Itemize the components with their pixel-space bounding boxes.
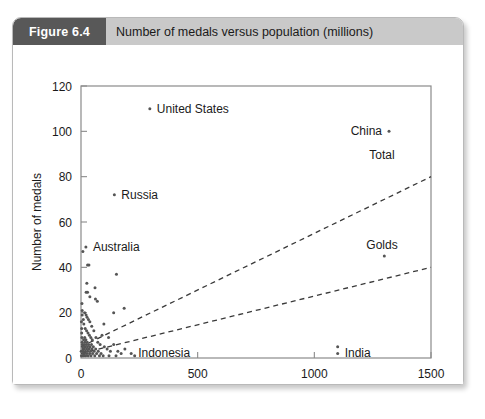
point-label-united-states: United States	[157, 102, 229, 116]
data-point	[102, 323, 105, 326]
y-tick-label: 60	[59, 216, 73, 230]
data-point	[99, 343, 102, 346]
y-tick-label: 20	[59, 306, 73, 320]
scatter-chart: 020406080100120050010001500Population (m…	[13, 45, 465, 385]
data-point	[109, 350, 112, 353]
data-point	[106, 347, 109, 350]
data-point	[123, 347, 126, 350]
data-point	[81, 313, 84, 316]
data-point	[100, 352, 103, 355]
data-point	[82, 354, 85, 357]
data-point	[80, 350, 83, 353]
data-point	[336, 345, 339, 348]
point-label-australia: Australia	[93, 240, 140, 254]
trend-line-golds	[81, 267, 431, 353]
y-tick-label: 80	[59, 170, 73, 184]
x-tick-label: 1500	[418, 367, 445, 381]
x-tick-label: 0	[78, 367, 85, 381]
y-axis-title: Number of medals	[30, 173, 44, 271]
figure-number-badge: Figure 6.4	[13, 18, 106, 45]
x-tick-label: 1000	[301, 367, 328, 381]
data-point	[103, 345, 106, 348]
data-point	[96, 341, 99, 344]
point-label-india: India	[345, 346, 371, 360]
y-tick-label: 120	[52, 80, 72, 94]
data-point	[112, 343, 115, 346]
data-point	[84, 245, 87, 248]
data-point	[90, 325, 93, 328]
data-point	[101, 334, 104, 337]
data-point	[130, 352, 133, 355]
y-tick-label: 0	[65, 352, 72, 366]
data-point	[94, 347, 97, 350]
data-point	[80, 327, 83, 330]
trend-line-total	[81, 177, 431, 347]
data-point	[80, 302, 83, 305]
data-point	[388, 130, 391, 133]
data-point	[82, 323, 85, 326]
data-point	[120, 352, 123, 355]
data-point	[91, 338, 94, 341]
data-point	[92, 329, 95, 332]
point-label-china: China	[351, 124, 383, 138]
data-point	[102, 354, 105, 357]
plot-panel: 020406080100120050010001500Population (m…	[13, 45, 463, 384]
data-point	[86, 291, 89, 294]
point-label-russia: Russia	[121, 188, 158, 202]
data-point	[336, 352, 339, 355]
data-point	[80, 332, 83, 335]
data-point	[92, 345, 95, 348]
data-point	[81, 309, 84, 312]
data-point	[123, 307, 126, 310]
data-point	[87, 264, 90, 267]
data-point	[383, 255, 386, 258]
data-point	[112, 311, 115, 314]
data-point	[107, 336, 110, 339]
series-label-golds: Golds	[366, 238, 397, 252]
series-label-total: Total	[369, 148, 394, 162]
data-point	[96, 300, 99, 303]
y-tick-label: 40	[59, 261, 73, 275]
data-point	[88, 320, 91, 323]
data-point	[115, 354, 118, 357]
figure-header: Figure 6.4 Number of medals versus popul…	[13, 18, 463, 45]
data-point	[94, 286, 97, 289]
data-point	[88, 295, 91, 298]
data-point	[115, 273, 118, 276]
data-point	[80, 320, 83, 323]
x-tick-label: 500	[188, 367, 208, 381]
figure-card: Figure 6.4 Number of medals versus popul…	[12, 17, 464, 385]
data-point	[97, 350, 100, 353]
data-point	[108, 354, 111, 357]
data-point	[81, 250, 84, 253]
data-point	[116, 350, 119, 353]
data-point	[133, 354, 136, 357]
y-tick-label: 100	[52, 125, 72, 139]
point-label-indonesia: Indonesia	[138, 346, 190, 360]
data-point	[148, 107, 151, 110]
data-point	[85, 282, 88, 285]
data-point	[94, 336, 97, 339]
figure-title: Number of medals versus population (mill…	[116, 18, 373, 45]
data-point	[113, 193, 116, 196]
